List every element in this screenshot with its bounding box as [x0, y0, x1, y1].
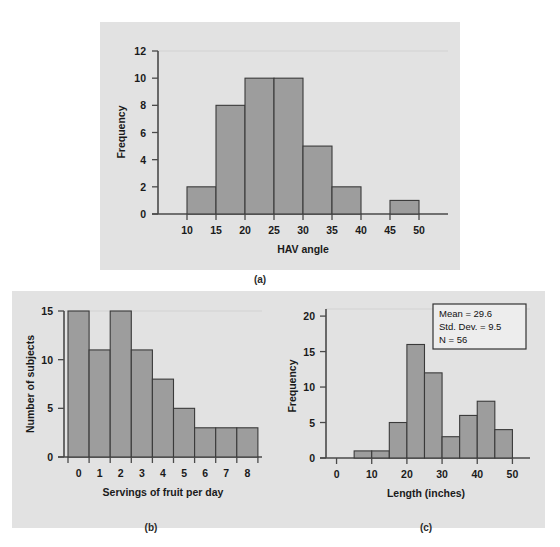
chart-a-ytick-0: 0 — [140, 208, 146, 220]
chart-c-ytick-0: 0 — [309, 452, 315, 464]
bar-servings-5 — [174, 408, 195, 457]
bar-30-35 — [303, 146, 332, 214]
stats-mean-label: Mean = 29.6 — [439, 308, 492, 319]
chart-a-xtick-30: 30 — [297, 224, 309, 236]
stats-n-label: N = 56 — [439, 334, 467, 345]
chart-a-x-ticks — [187, 214, 419, 220]
chart-c-stats-box: Mean = 29.6 Std. Dev. = 9.5 N = 56 — [433, 304, 526, 349]
chart-c-y-axis-label: Frequency — [286, 359, 298, 412]
chart-a-ytick-8: 8 — [140, 99, 146, 111]
chart-a-xtick-20: 20 — [239, 224, 251, 236]
bar-length-15-20 — [389, 423, 407, 458]
bar-servings-0 — [68, 311, 89, 457]
chart-a-y-ticks — [152, 51, 158, 214]
chart-c-ytick-20: 20 — [303, 310, 315, 322]
chart-c-ytick-15: 15 — [303, 346, 315, 358]
chart-c-xtick-30: 30 — [436, 468, 448, 480]
chart-a-ytick-4: 4 — [140, 154, 146, 166]
chart-c-ytick-5: 5 — [309, 417, 315, 429]
chart-b-xtick-1: 1 — [97, 467, 103, 479]
bar-10-15 — [187, 187, 216, 214]
chart-a-ytick-6: 6 — [140, 127, 146, 139]
chart-c-svg: 20 15 10 5 0 0 10 — [278, 291, 546, 528]
chart-b-y-axis-label: Number of subjects — [24, 335, 36, 433]
bar-35-40 — [332, 187, 361, 214]
chart-b-ytick-15: 15 — [41, 305, 53, 317]
chart-b-xtick-3: 3 — [139, 467, 145, 479]
chart-b-xtick-7: 7 — [223, 467, 229, 479]
panel-letter-a: (a) — [240, 274, 280, 285]
panel-letter-b: (b) — [131, 522, 171, 533]
chart-a-xtick-50: 50 — [413, 224, 425, 236]
chart-a-xtick-10: 10 — [181, 224, 193, 236]
bar-servings-1 — [89, 350, 110, 457]
chart-c-ytick-10: 10 — [303, 381, 315, 393]
chart-b-xtick-8: 8 — [244, 467, 250, 479]
chart-b-x-ticks — [68, 457, 258, 463]
bar-servings-4 — [152, 379, 173, 457]
bar-servings-3 — [131, 350, 152, 457]
chart-a-xtick-45: 45 — [384, 224, 396, 236]
chart-b-xtick-2: 2 — [118, 467, 124, 479]
bar-length-45-50 — [495, 430, 513, 458]
chart-a-ytick-10: 10 — [134, 72, 146, 84]
chart-b-xtick-6: 6 — [202, 467, 208, 479]
bar-15-20 — [216, 105, 245, 214]
bar-servings-2 — [110, 311, 131, 457]
chart-a-xtick-40: 40 — [355, 224, 367, 236]
chart-b-xtick-0: 0 — [76, 467, 82, 479]
panel-letter-c: (c) — [406, 522, 446, 533]
chart-c-x-ticklabels: 0 10 20 30 40 50 — [334, 468, 519, 480]
chart-a-xtick-15: 15 — [210, 224, 222, 236]
chart-b-ytick-5: 5 — [47, 402, 53, 414]
chart-c-xtick-10: 10 — [366, 468, 378, 480]
bar-length-10-15 — [372, 451, 390, 458]
chart-b-ytick-10: 10 — [41, 354, 53, 366]
chart-c-y-ticklabels: 20 15 10 5 0 — [303, 310, 315, 464]
chart-c-xtick-0: 0 — [334, 468, 340, 480]
chart-a-svg: 12 10 8 6 4 2 0 — [100, 22, 460, 270]
bar-25-30 — [274, 78, 303, 214]
chart-b-x-ticklabels: 0 1 2 3 4 5 6 7 8 — [76, 467, 251, 479]
histogram-servings-of-fruit: 15 10 5 0 — [12, 291, 278, 528]
chart-a-x-axis-label: HAV angle — [277, 243, 329, 255]
chart-a-ytick-2: 2 — [140, 181, 146, 193]
histogram-length-inches: 20 15 10 5 0 0 10 — [278, 291, 546, 528]
chart-a-ytick-12: 12 — [134, 45, 146, 57]
bar-length-30-35 — [442, 437, 460, 458]
chart-b-y-ticks — [58, 311, 64, 457]
chart-b-ytick-0: 0 — [47, 451, 53, 463]
chart-c-x-ticks — [337, 458, 513, 464]
chart-a-xtick-25: 25 — [268, 224, 280, 236]
bar-length-40-45 — [477, 401, 495, 458]
chart-c-xtick-20: 20 — [401, 468, 413, 480]
chart-b-x-axis-label: Servings of fruit per day — [103, 486, 224, 498]
bar-servings-8 — [237, 428, 258, 457]
histogram-hav-angle: 12 10 8 6 4 2 0 — [100, 22, 460, 270]
bar-servings-7 — [216, 428, 237, 457]
chart-a-x-ticklabels: 10 15 20 25 30 35 40 45 50 — [181, 224, 425, 236]
bar-length-5-10 — [354, 451, 372, 458]
chart-b-svg: 15 10 5 0 — [12, 291, 278, 528]
stats-stddev-label: Std. Dev. = 9.5 — [439, 321, 501, 332]
chart-c-x-axis-label: Length (inches) — [387, 487, 465, 499]
bar-servings-6 — [195, 428, 216, 457]
chart-a-bars — [187, 78, 419, 214]
bar-length-35-40 — [460, 415, 478, 458]
chart-c-y-ticks — [320, 316, 326, 458]
chart-a-xtick-35: 35 — [326, 224, 338, 236]
bar-45-50 — [390, 200, 419, 214]
chart-c-bars — [354, 344, 512, 458]
chart-b-y-ticklabels: 15 10 5 0 — [41, 305, 53, 463]
chart-b-xtick-4: 4 — [160, 467, 166, 479]
chart-c-xtick-40: 40 — [471, 468, 483, 480]
bar-20-25 — [245, 78, 274, 214]
chart-a-y-ticklabels: 12 10 8 6 4 2 0 — [134, 45, 146, 220]
chart-a-y-axis-label: Frequency — [115, 105, 127, 158]
chart-b-bars — [68, 311, 258, 457]
bar-length-25-30 — [424, 373, 442, 458]
chart-c-xtick-50: 50 — [507, 468, 519, 480]
chart-b-xtick-5: 5 — [181, 467, 187, 479]
bar-length-20-25 — [407, 344, 425, 458]
